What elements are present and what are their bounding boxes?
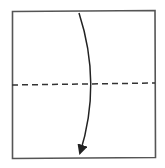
diagram-canvas — [0, 0, 165, 168]
origami-diagram — [0, 0, 165, 168]
